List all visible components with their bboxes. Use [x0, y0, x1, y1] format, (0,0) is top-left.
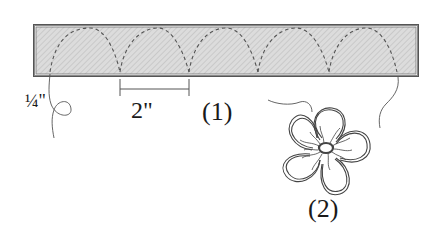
right-thread-tail: [379, 77, 398, 128]
flower-petals: [283, 108, 370, 195]
flower-center: [319, 143, 333, 153]
left-thread-loop: [49, 74, 71, 138]
diagram-canvas: ¼" 2" (1) (2): [0, 0, 432, 242]
flower-figure: [283, 108, 370, 195]
figure-1-label: (1): [202, 99, 232, 125]
two-inch-label: 2": [131, 98, 153, 122]
quarter-inch-label: ¼": [25, 92, 46, 110]
flower-stamens: [300, 126, 352, 170]
fabric-strip: [33, 24, 419, 77]
dimension-bracket-2in: [120, 79, 189, 96]
flower-left-thread: [268, 100, 312, 112]
figure-2-label: (2): [308, 196, 338, 222]
